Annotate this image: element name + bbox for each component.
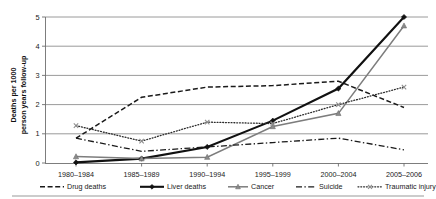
y-tick-label: 3	[35, 71, 39, 80]
data-point	[74, 123, 78, 127]
gridlines	[46, 17, 429, 134]
chart-container: Deaths per 1000 person years follow-up 0…	[0, 0, 436, 199]
y-axis-title: Deaths per 1000 person years follow-up	[9, 55, 28, 134]
series-layer	[76, 17, 404, 162]
y-tick-label: 5	[35, 13, 39, 22]
x-tick-label: 1985–1989	[124, 170, 160, 179]
x-axis-labels: 1980–19841985–19891990–19941995–19992000…	[58, 170, 422, 179]
x-tick-label: 2005–2006	[386, 170, 422, 179]
series-line-suicide	[76, 138, 404, 151]
legend-label-suicide[interactable]: Suicide	[319, 182, 343, 191]
y-tick-label: 2	[35, 100, 39, 109]
y-tick-label: 1	[35, 129, 39, 138]
line-chart: Deaths per 1000 person years follow-up 0…	[0, 0, 436, 199]
legend-label-liver-deaths[interactable]: Liver deaths	[167, 182, 207, 191]
data-point	[139, 139, 143, 143]
y-axis-title-line2: person years follow-up	[19, 55, 28, 134]
x-tick-label: 2000–2004	[320, 170, 356, 179]
legend-label-cancer[interactable]: Cancer	[251, 182, 275, 191]
data-point	[73, 160, 78, 165]
legend-label-traumatic-injury[interactable]: Traumatic injury	[385, 182, 436, 191]
y-axis-title-line1: Deaths per 1000	[9, 67, 18, 122]
chart-legend: Drug deathsLiver deathsCancerSuicideTrau…	[40, 182, 436, 191]
y-tick-label: 0	[35, 159, 39, 168]
data-point	[401, 23, 406, 28]
x-tick-label: 1980–1984	[58, 170, 94, 179]
legend-label-drug-deaths[interactable]: Drug deaths	[67, 182, 107, 191]
y-tick-label: 4	[35, 42, 39, 51]
y-axis-ticks: 012345	[35, 13, 45, 168]
series-line-cancer	[76, 26, 404, 159]
x-tick-label: 1990–1994	[189, 170, 225, 179]
legend-marker	[150, 184, 155, 189]
x-tick-label: 1995–1999	[255, 170, 291, 179]
series-line-drug-deaths	[76, 81, 404, 138]
